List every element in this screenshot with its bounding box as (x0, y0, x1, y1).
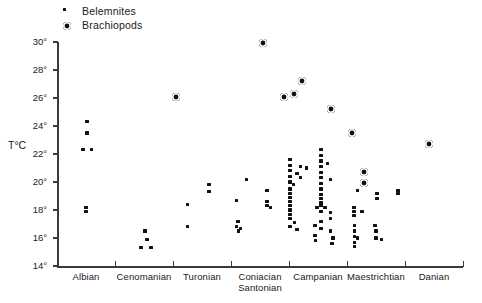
x-axis-tick (57, 261, 58, 267)
belemnite-data-point (293, 221, 296, 224)
belemnite-data-point (319, 227, 322, 230)
belemnite-data-point (319, 159, 322, 162)
belemnite-data-point (353, 241, 356, 244)
x-axis-tick (405, 261, 406, 267)
belemnite-data-point (375, 192, 378, 195)
belemnite-data-point (288, 196, 291, 199)
belemnite-data-point (84, 206, 87, 209)
belemnite-data-point (288, 192, 291, 195)
belemnite-data-point (353, 229, 356, 232)
x-axis-tick (463, 261, 464, 267)
belemnite-data-point (269, 206, 272, 209)
belemnite-data-point (329, 217, 332, 220)
belemnite-data-point (288, 200, 291, 203)
belemnite-data-point (352, 210, 355, 213)
belemnite-data-point (265, 189, 268, 192)
y-axis-tick-label: 24° (13, 120, 47, 131)
belemnite-data-point (207, 190, 210, 193)
belemnite-data-point (314, 239, 317, 242)
brachiopod-data-point (327, 105, 335, 113)
belemnite-data-point (237, 229, 240, 232)
brachiopod-data-point (280, 93, 288, 101)
legend-label-brachiopods: Brachiopods (82, 18, 143, 32)
belemnite-data-point (288, 225, 291, 228)
belemnite-data-point (313, 234, 316, 237)
y-axis-tick-label: 22° (13, 148, 47, 159)
belemnite-data-point (380, 238, 383, 241)
belemnite-data-point (149, 246, 152, 249)
belemnite-data-point (139, 246, 142, 249)
y-axis-tick (53, 69, 58, 70)
belemnite-data-point (319, 165, 322, 168)
belemnite-data-point (207, 183, 210, 186)
belemnite-data-point (288, 204, 291, 207)
belemnite-data-point (319, 204, 322, 207)
belemnite-data-point (326, 162, 329, 165)
belemnite-data-point (319, 176, 322, 179)
belemnite-data-point (186, 203, 189, 206)
belemnite-data-point (245, 178, 248, 181)
belemnite-data-point (319, 220, 322, 223)
y-axis-tick-label: 16° (13, 232, 47, 243)
x-axis-label-line: Santonian (218, 282, 302, 293)
belemnite-data-point (288, 158, 291, 161)
belemnite-data-point (288, 175, 291, 178)
belemnite-data-point (374, 236, 377, 239)
y-axis-tick (53, 153, 58, 154)
y-axis-tick (53, 181, 58, 182)
y-axis-tick-label: 26° (13, 92, 47, 103)
belemnite-data-point (330, 242, 333, 245)
x-axis-tick (231, 261, 232, 267)
belemnite-data-point (319, 171, 322, 174)
belemnite-data-point (352, 206, 355, 209)
legend-label-belemnites: Belemnites (82, 4, 136, 18)
brachiopod-data-point (348, 129, 356, 137)
belemnite-data-point (313, 224, 316, 227)
belemnite-data-point (295, 228, 298, 231)
belemnite-data-point (356, 236, 359, 239)
belemnite-data-point (331, 236, 334, 239)
belemnite-data-point (353, 224, 356, 227)
belemnite-data-point (295, 172, 298, 175)
belemnite-data-point (265, 200, 268, 203)
brachiopod-data-point (298, 77, 306, 85)
belemnite-data-point (186, 225, 189, 228)
belemnite-data-point (375, 197, 378, 200)
brachiopod-data-point (172, 93, 180, 101)
belemnite-data-point (235, 199, 238, 202)
x-axis-label-danian: Danian (392, 271, 476, 282)
y-axis-tick (53, 209, 58, 210)
y-axis-tick (53, 41, 58, 42)
belemnite-data-point (352, 214, 355, 217)
belemnite-data-point (299, 176, 302, 179)
brachiopod-data-point (360, 179, 368, 187)
y-axis-tick-label: 28° (13, 64, 47, 75)
y-axis-tick-label: 30° (13, 36, 47, 47)
x-axis-label-line: Albian (72, 271, 99, 282)
belemnite-data-point (85, 120, 88, 123)
y-axis-tick (53, 237, 58, 238)
belemnite-dot-icon (63, 8, 66, 11)
belemnite-data-point (373, 224, 376, 227)
belemnite-data-point (319, 193, 322, 196)
belemnite-data-point (319, 187, 322, 190)
belemnite-data-point (396, 192, 399, 195)
x-axis-tick (289, 261, 290, 267)
belemnite-data-point (143, 229, 146, 232)
belemnite-data-point (288, 169, 291, 172)
brachiopod-data-point (290, 90, 298, 98)
belemnite-data-point (329, 229, 332, 232)
belemnite-data-point (145, 238, 148, 241)
brachiopod-circle-icon (63, 22, 71, 30)
belemnite-data-point (305, 166, 308, 169)
y-axis-tick-label: 14° (13, 260, 47, 271)
belemnite-data-point (319, 197, 322, 200)
belemnite-data-point (288, 213, 291, 216)
belemnite-data-point (319, 182, 322, 185)
brachiopod-data-point (360, 168, 368, 176)
belemnite-data-point (319, 210, 322, 213)
brachiopod-data-point (259, 39, 267, 47)
x-axis-tick (347, 261, 348, 267)
brachiopod-data-point (425, 140, 433, 148)
y-axis-tick (53, 125, 58, 126)
